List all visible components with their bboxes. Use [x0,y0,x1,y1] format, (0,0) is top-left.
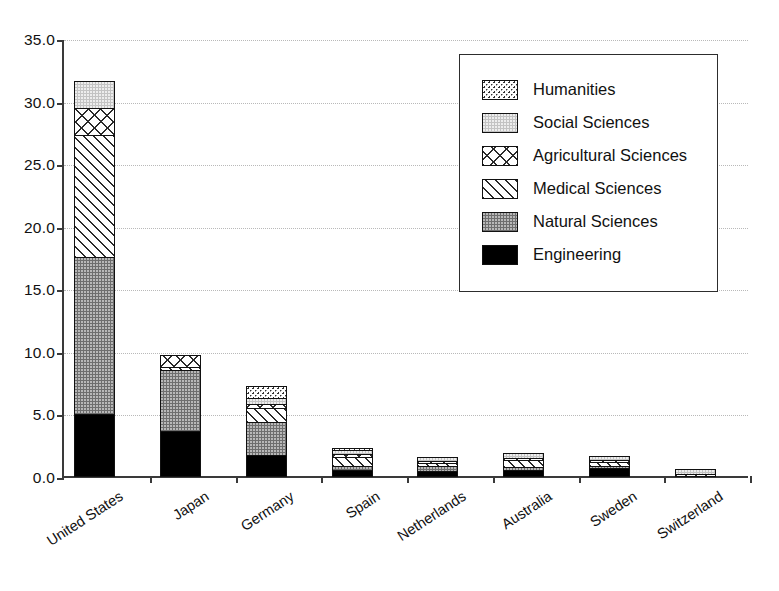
y-tick-label: 10.0 [24,344,64,362]
x-tick-label-germany: Germany [238,488,297,534]
legend-item-label: Engineering [533,245,621,264]
bar-segment-engineering[interactable] [417,471,458,477]
legend-item-engineering[interactable]: Engineering [482,238,717,271]
x-tick-mark [321,476,323,483]
bar-netherlands[interactable] [417,457,458,476]
x-tick-label-sweden: Sweden [587,488,640,530]
bar-segment-social[interactable] [74,81,115,110]
legend-swatch-engineering-icon [482,245,518,265]
legend-item-label: Natural Sciences [533,212,658,231]
legend-item-agricultural[interactable]: Agricultural Sciences [482,139,717,172]
x-tick-label-united-states: United States [44,488,126,549]
bar-segment-medical[interactable] [246,408,287,423]
bar-segment-engineering[interactable] [160,431,201,477]
x-tick-mark [236,476,238,483]
x-tick-label-netherlands: Netherlands [394,488,468,544]
y-tick-label: 30.0 [24,94,64,112]
legend-swatch-humanities-icon [482,80,518,100]
x-tick-mark [150,476,152,483]
bar-segment-engineering[interactable] [74,414,115,477]
x-tick-label-switzerland: Switzerland [654,488,726,542]
y-tick-label: 35.0 [24,31,64,49]
legend-item-natural[interactable]: Natural Sciences [482,205,717,238]
legend-swatch-natural-icon [482,212,518,232]
legend-swatch-medical-icon [482,179,518,199]
bar-segment-natural[interactable] [246,422,287,456]
y-tick-label: 15.0 [24,281,64,299]
bar-segment-natural[interactable] [160,370,201,431]
bar-spain[interactable] [332,448,373,476]
y-tick-label: 25.0 [24,156,64,174]
legend-item-label: Social Sciences [533,113,649,132]
bar-segment-engineering[interactable] [503,470,544,477]
legend-item-label: Agricultural Sciences [533,146,687,165]
bar-segment-humanities[interactable] [246,386,287,400]
x-tick-mark [750,476,752,483]
y-tick-label: 20.0 [24,219,64,237]
legend-item-humanities[interactable]: Humanities [482,73,717,106]
legend-item-social[interactable]: Social Sciences [482,106,717,139]
bar-segment-engineering[interactable] [332,470,373,478]
bar-sweden[interactable] [589,456,630,477]
bar-segment-engineering[interactable] [246,455,287,477]
x-tick-mark [579,476,581,483]
chart-legend: HumanitiesSocial SciencesAgricultural Sc… [459,54,718,292]
x-tick-label-spain: Spain [343,488,383,522]
gridline [64,40,748,41]
x-tick-mark [407,476,409,483]
x-tick-label-australia: Australia [498,488,554,532]
bar-segment-medical[interactable] [675,474,716,477]
x-tick-mark [493,476,495,483]
bar-segment-agricultural[interactable] [74,108,115,136]
bar-segment-medical[interactable] [74,135,115,258]
legend-swatch-social-icon [482,113,518,133]
y-tick-label: 0.0 [33,469,64,487]
bar-united-states[interactable] [74,81,115,476]
x-tick-mark [664,476,666,483]
y-tick-label: 5.0 [33,406,64,424]
bar-australia[interactable] [503,453,544,476]
x-tick-label-japan: Japan [169,488,211,523]
legend-item-label: Humanities [533,80,616,99]
legend-swatch-agricultural-icon [482,146,518,166]
chart-figure: 0.05.010.015.020.025.030.035.0 United St… [0,0,779,591]
bar-segment-natural[interactable] [74,257,115,416]
bar-germany[interactable] [246,386,287,476]
bar-japan[interactable] [160,355,201,476]
legend-item-medical[interactable]: Medical Sciences [482,172,717,205]
legend-item-label: Medical Sciences [533,179,661,198]
bar-segment-engineering[interactable] [589,468,630,477]
gridline [64,353,748,354]
bar-switzerland[interactable] [675,469,716,476]
